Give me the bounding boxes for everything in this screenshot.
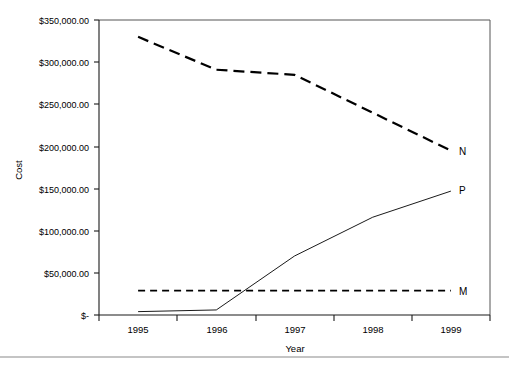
series-line-p — [138, 191, 451, 312]
series-line-n — [138, 37, 451, 151]
chart-figure: $350,000.00 $300,000.00 $250,000.00 $200… — [0, 0, 509, 370]
y-tick-label-200000: $200,000.00 — [39, 143, 89, 153]
x-axis-ticks — [99, 315, 490, 321]
y-axis-tick-labels: $350,000.00 $300,000.00 $250,000.00 $200… — [39, 16, 89, 321]
series-label-n: N — [459, 146, 466, 157]
x-tick-label-1999: 1999 — [440, 324, 461, 335]
x-tick-label-1998: 1998 — [362, 324, 383, 335]
y-tick-label-250000: $250,000.00 — [39, 100, 89, 110]
x-tick-label-1996: 1996 — [206, 324, 227, 335]
y-tick-label-300000: $300,000.00 — [39, 58, 89, 68]
y-tick-label-50000: $50,000.00 — [44, 269, 89, 279]
x-axis-title: Year — [285, 343, 304, 354]
y-tick-label-150000: $150,000.00 — [39, 185, 89, 195]
y-tick-label-100000: $100,000.00 — [39, 227, 89, 237]
series-label-m: M — [459, 286, 467, 297]
y-tick-label-0: $- — [81, 311, 89, 321]
y-tick-label-350000: $350,000.00 — [39, 16, 89, 26]
y-axis-title: Cost — [13, 160, 24, 180]
line-chart-canvas: $350,000.00 $300,000.00 $250,000.00 $200… — [0, 0, 509, 370]
x-tick-label-1997: 1997 — [284, 324, 305, 335]
plot-frame — [99, 20, 490, 315]
y-axis-ticks — [94, 20, 99, 315]
x-tick-label-1995: 1995 — [127, 324, 148, 335]
x-axis-tick-labels: 1995 1996 1997 1998 1999 — [127, 324, 461, 335]
series-label-p: P — [459, 185, 466, 196]
